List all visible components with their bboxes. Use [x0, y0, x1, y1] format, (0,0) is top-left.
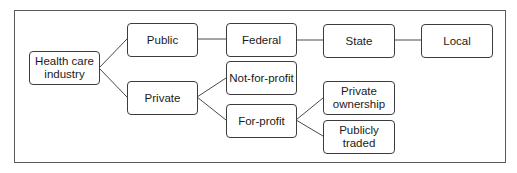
node-label-line1: Publicly	[339, 124, 379, 137]
node-label-line1: Health care	[35, 55, 94, 68]
node-label: Not-for-profit	[229, 72, 294, 85]
node-label-line1: Private	[333, 85, 385, 98]
node-not-for-profit: Not-for-profit	[226, 61, 297, 95]
node-label-line2: industry	[35, 68, 94, 81]
node-label: Federal	[242, 34, 281, 47]
node-federal: Federal	[226, 23, 297, 57]
node-health-care-industry: Health care industry	[29, 51, 100, 85]
node-for-profit: For-profit	[226, 104, 297, 138]
node-label-line2: ownership	[333, 98, 385, 111]
node-private-ownership: Private ownership	[323, 81, 395, 115]
node-public: Public	[127, 23, 198, 57]
node-label: For-profit	[238, 115, 285, 128]
node-state: State	[323, 24, 395, 58]
node-label-line2: traded	[339, 137, 379, 150]
node-private: Private	[127, 81, 198, 115]
node-label: Public	[147, 34, 178, 47]
node-label: Local	[443, 35, 471, 48]
node-label: State	[346, 35, 373, 48]
node-publicly-traded: Publicly traded	[323, 120, 395, 154]
node-local: Local	[421, 24, 493, 58]
node-label: Private	[145, 92, 181, 105]
